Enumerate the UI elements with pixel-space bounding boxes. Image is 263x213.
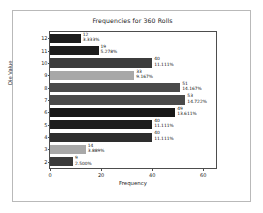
bar-percent-label: 14.167%: [182, 86, 202, 91]
bar-percent-label: 3.889%: [88, 148, 105, 153]
y-tick-mark: [48, 125, 50, 126]
y-tick-label: 4: [14, 134, 48, 140]
bar-percent-label: 14.722%: [187, 99, 207, 104]
bar[interactable]: [50, 83, 180, 92]
bar-data-label: 4011.111%: [152, 130, 174, 141]
bar-data-label: 123.333%: [81, 32, 100, 43]
bar-data-label: 4011.111%: [152, 56, 174, 67]
bar-percent-label: 11.111%: [154, 62, 174, 67]
y-tick-label: 12: [14, 36, 48, 42]
bar-data-label: 339.167%: [134, 69, 153, 80]
y-tick-mark: [48, 100, 50, 101]
bar-percent-label: 2.500%: [75, 161, 92, 166]
bar[interactable]: [50, 95, 185, 104]
bar[interactable]: [50, 58, 152, 67]
bar-series: 123.333%12195.278%114011.111%10339.167%9…: [50, 32, 216, 168]
bar-data-label: 5114.167%: [180, 81, 202, 92]
y-tick-mark: [48, 137, 50, 138]
x-tick-mark: [152, 169, 153, 171]
x-axis-label: Frequency: [49, 180, 217, 186]
bar-percent-label: 11.111%: [154, 123, 174, 128]
bar-row: 339.167%9: [50, 69, 216, 82]
chart-title: Frequencies for 360 Rolls: [13, 17, 252, 24]
y-tick-mark: [48, 51, 50, 52]
bar-data-label: 4913.611%: [175, 106, 197, 117]
y-tick-mark: [48, 63, 50, 64]
y-tick-mark: [48, 112, 50, 113]
x-tick-label: 20: [98, 172, 104, 178]
bar-data-label: 5314.722%: [185, 93, 207, 104]
bar-row: 143.889%3: [50, 143, 216, 156]
bar[interactable]: [50, 46, 99, 55]
y-tick-label: 11: [14, 48, 48, 54]
bar-row: 123.333%12: [50, 32, 216, 45]
bar-row: 4913.611%6: [50, 106, 216, 119]
plot-area: 123.333%12195.278%114011.111%10339.167%9…: [49, 31, 217, 169]
bar-row: 92.500%2: [50, 156, 216, 169]
bar-percent-label: 9.167%: [136, 74, 153, 79]
bar-data-label: 92.500%: [73, 155, 92, 166]
y-tick-mark: [48, 88, 50, 89]
bar[interactable]: [50, 120, 152, 129]
bar-percent-label: 13.611%: [177, 111, 197, 116]
bar-percent-label: 5.278%: [101, 49, 118, 54]
y-tick-mark: [48, 38, 50, 39]
x-axis: Frequency 0204060: [49, 169, 217, 191]
x-tick-mark: [50, 169, 51, 171]
x-tick-label: 0: [48, 172, 51, 178]
bar-percent-label: 3.333%: [83, 37, 100, 42]
x-tick-label: 60: [200, 172, 206, 178]
y-tick-mark: [48, 149, 50, 150]
bar-row: 195.278%11: [50, 44, 216, 57]
y-tick-mark: [48, 75, 50, 76]
x-tick-mark: [101, 169, 102, 171]
bar[interactable]: [50, 34, 81, 43]
y-tick-label: 6: [14, 110, 48, 116]
bar[interactable]: [50, 157, 73, 166]
y-tick-label: 3: [14, 147, 48, 153]
x-tick-mark: [203, 169, 204, 171]
bar-data-label: 195.278%: [99, 44, 118, 55]
bar-percent-label: 11.111%: [154, 136, 174, 141]
y-tick-label: 2: [14, 159, 48, 165]
y-tick-label: 5: [14, 122, 48, 128]
bar-data-label: 143.889%: [86, 143, 105, 154]
y-tick-label: 8: [14, 85, 48, 91]
bar-row: 5314.722%7: [50, 94, 216, 107]
bar[interactable]: [50, 108, 175, 117]
y-tick-label: 7: [14, 97, 48, 103]
bar-data-label: 4011.111%: [152, 118, 174, 129]
bar-row: 5114.167%8: [50, 81, 216, 94]
bar-row: 4011.111%10: [50, 57, 216, 70]
bar-row: 4011.111%4: [50, 131, 216, 144]
y-tick-label: 9: [14, 73, 48, 79]
y-axis-label: Die Value: [7, 60, 13, 85]
bar[interactable]: [50, 145, 86, 154]
bar[interactable]: [50, 133, 152, 142]
bar-row: 4011.111%5: [50, 119, 216, 132]
y-tick-label: 10: [14, 60, 48, 66]
bar[interactable]: [50, 71, 134, 80]
y-tick-mark: [48, 162, 50, 163]
chart-figure: Frequencies for 360 Rolls Die Value 123.…: [12, 10, 251, 202]
x-tick-label: 40: [149, 172, 155, 178]
